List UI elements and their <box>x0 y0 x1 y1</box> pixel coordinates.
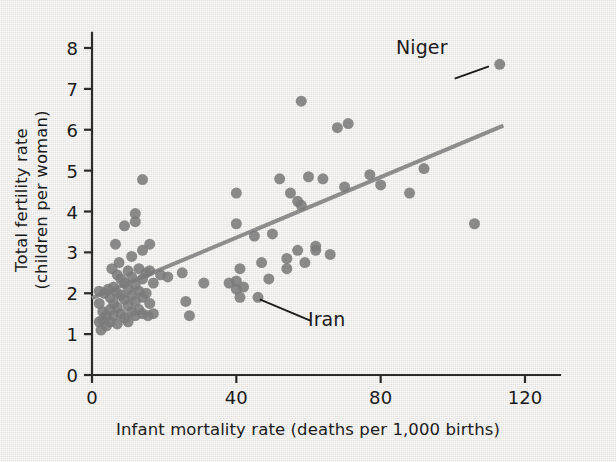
y-tick-label: 6 <box>54 119 78 140</box>
data-point <box>469 218 480 229</box>
data-point <box>296 96 307 107</box>
data-point <box>130 216 141 227</box>
data-point <box>144 239 155 250</box>
data-point <box>249 231 260 242</box>
y-tick-label: 4 <box>54 201 78 222</box>
data-point <box>332 122 343 133</box>
y-tick-label: 7 <box>54 78 78 99</box>
axes <box>84 32 561 383</box>
data-point <box>234 292 245 303</box>
data-point <box>231 218 242 229</box>
annotation-label-niger: Niger <box>396 36 448 58</box>
data-point <box>114 257 125 268</box>
data-point <box>267 228 278 239</box>
data-point <box>256 257 267 268</box>
data-points <box>94 59 506 336</box>
data-point <box>303 171 314 182</box>
annotation-label-iran: Iran <box>308 308 346 330</box>
x-tick-label: 120 <box>508 387 543 408</box>
y-tick-label: 0 <box>54 365 78 386</box>
y-axis-title: Total fertility rate (children per woman… <box>12 110 52 289</box>
data-point <box>325 249 336 260</box>
data-point <box>364 169 375 180</box>
data-point <box>292 245 303 256</box>
y-axis-title-line2: (children per woman) <box>32 110 52 289</box>
data-point <box>375 179 386 190</box>
data-point <box>141 288 152 299</box>
data-point <box>281 263 292 274</box>
data-point <box>281 253 292 264</box>
data-point <box>317 173 328 184</box>
data-point <box>144 298 155 309</box>
data-point <box>274 173 285 184</box>
data-point <box>110 239 121 250</box>
data-point <box>177 267 188 278</box>
data-point <box>184 310 195 321</box>
y-tick-label: 8 <box>54 38 78 59</box>
y-tick-label: 3 <box>54 242 78 263</box>
data-point <box>310 245 321 256</box>
data-point <box>231 188 242 199</box>
x-tick-label: 80 <box>369 387 392 408</box>
leader-line-iran <box>260 299 311 320</box>
data-point <box>339 181 350 192</box>
leader-line-niger <box>455 66 489 78</box>
data-point <box>343 118 354 129</box>
chart-figure: 04080120 012345678 Infant mortality rate… <box>0 0 616 462</box>
data-point <box>126 251 137 262</box>
data-point <box>137 174 148 185</box>
y-tick-label: 2 <box>54 283 78 304</box>
data-point <box>162 271 173 282</box>
data-point <box>148 308 159 319</box>
data-point <box>144 265 155 276</box>
data-point <box>180 296 191 307</box>
data-point <box>234 263 245 274</box>
data-point <box>494 59 505 70</box>
data-point <box>263 273 274 284</box>
data-point <box>198 278 209 289</box>
data-point <box>238 282 249 293</box>
data-point <box>119 220 130 231</box>
x-tick-label: 40 <box>225 387 248 408</box>
data-point <box>299 257 310 268</box>
y-tick-label: 5 <box>54 160 78 181</box>
y-tick-label: 1 <box>54 324 78 345</box>
y-axis-title-line1: Total fertility rate <box>12 110 32 289</box>
x-tick-label: 0 <box>86 387 98 408</box>
x-axis-title: Infant mortality rate (deaths per 1,000 … <box>116 420 500 439</box>
data-point <box>404 188 415 199</box>
data-point <box>296 200 307 211</box>
data-point <box>418 163 429 174</box>
